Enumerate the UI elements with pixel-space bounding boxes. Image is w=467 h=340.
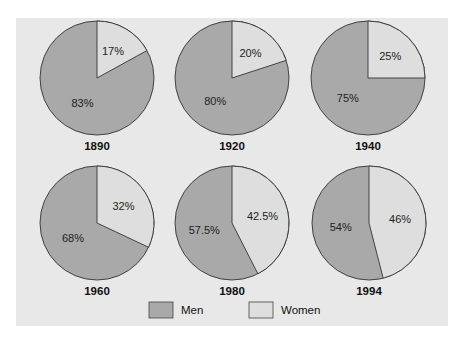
legend-swatch-women [249, 302, 273, 318]
pie-1994: 46%54%1994 [312, 166, 426, 297]
women-percent-label: 25% [379, 50, 401, 62]
year-label: 1940 [355, 140, 381, 152]
legend-label-women: Women [281, 304, 320, 316]
pie-1890: 17%83%1890 [40, 21, 154, 152]
women-percent-label: 46% [389, 213, 411, 225]
year-label: 1920 [219, 140, 245, 152]
men-percent-label: 80% [204, 95, 226, 107]
men-percent-label: 68% [62, 232, 84, 244]
men-percent-label: 54% [330, 221, 352, 233]
women-percent-label: 17% [102, 45, 124, 57]
legend: MenWomen [149, 302, 320, 318]
men-percent-label: 83% [71, 97, 93, 109]
legend-swatch-men [149, 302, 173, 318]
pie-chart-grid: 17%83%189020%80%192025%75%194032%68%1960… [0, 0, 467, 340]
women-percent-label: 42.5% [247, 210, 278, 222]
pie-1940: 25%75%1940 [311, 21, 425, 152]
women-percent-label: 32% [112, 200, 134, 212]
year-label: 1994 [356, 285, 382, 297]
year-label: 1960 [84, 285, 110, 297]
women-percent-label: 20% [239, 47, 261, 59]
pie-1960: 32%68%1960 [40, 166, 154, 297]
year-label: 1890 [84, 140, 110, 152]
legend-label-men: Men [181, 304, 203, 316]
year-label: 1980 [219, 285, 245, 297]
pie-1920: 20%80%1920 [175, 21, 289, 152]
pie-1980: 42.5%57.5%1980 [175, 166, 289, 297]
men-percent-label: 75% [337, 92, 359, 104]
men-percent-label: 57.5% [189, 224, 220, 236]
